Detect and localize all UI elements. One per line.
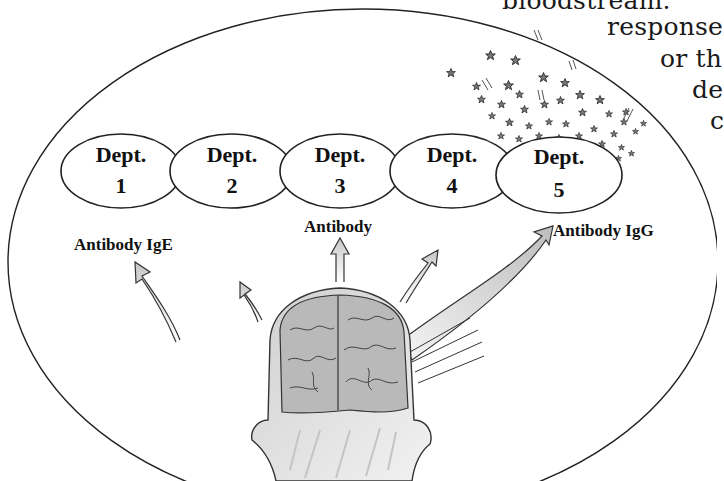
department-2-title: Dept. bbox=[207, 142, 258, 167]
department-4-title: Dept. bbox=[427, 142, 478, 167]
department-4: Dept. 4 bbox=[390, 134, 514, 208]
department-5-title: Dept. bbox=[534, 144, 585, 169]
antibody-igg-label: Antibody IgG bbox=[553, 221, 654, 240]
department-chain: Dept. 1 Dept. 2 Dept. 3 Dept. 4 Dept. bbox=[61, 134, 622, 213]
arrow-to-dept-4 bbox=[400, 250, 438, 303]
arrow-to-dept-3 bbox=[331, 238, 349, 282]
arrow-to-dept-5 bbox=[402, 226, 553, 383]
department-3-number: 3 bbox=[335, 173, 346, 198]
department-5: Dept. 5 bbox=[496, 137, 622, 213]
arrow-to-dept-2 bbox=[240, 282, 262, 322]
department-1-number: 1 bbox=[116, 173, 127, 198]
department-2: Dept. 2 bbox=[170, 134, 292, 208]
department-1: Dept. 1 bbox=[61, 134, 181, 208]
department-2-number: 2 bbox=[227, 173, 238, 198]
arrow-to-dept-1 bbox=[135, 262, 180, 342]
department-3: Dept. 3 bbox=[280, 134, 400, 208]
department-4-number: 4 bbox=[447, 173, 458, 198]
department-5-number: 5 bbox=[554, 177, 565, 202]
department-3-title: Dept. bbox=[315, 142, 366, 167]
antibody-ige-label: Antibody IgE bbox=[74, 235, 173, 254]
antibody-label: Antibody bbox=[304, 217, 373, 236]
department-1-title: Dept. bbox=[96, 142, 147, 167]
head-with-brain-illustration bbox=[252, 288, 431, 481]
